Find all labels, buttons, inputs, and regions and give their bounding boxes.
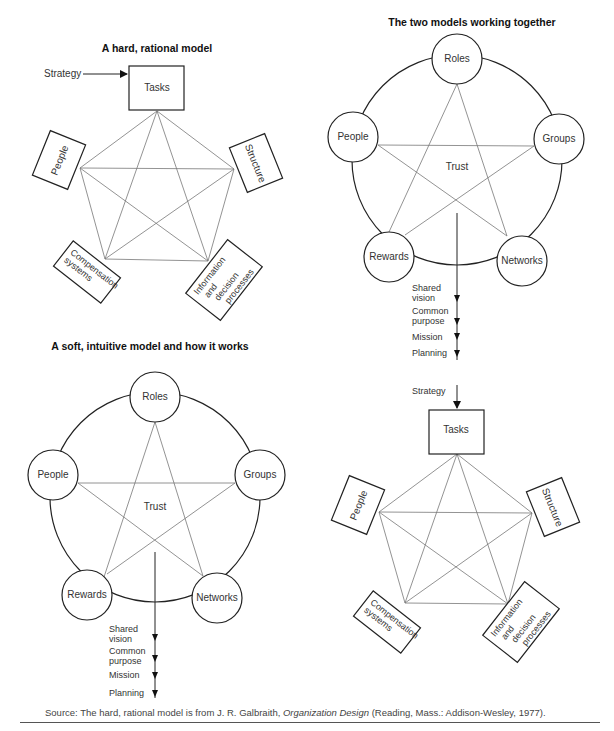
diagram-canvas: A hard, rational model Strategy Tasks Pe… xyxy=(0,0,614,731)
svg-text:Groups: Groups xyxy=(244,469,277,480)
node-structure: Structure xyxy=(229,134,282,193)
svg-text:Mission: Mission xyxy=(412,332,443,342)
svg-text:Groups: Groups xyxy=(543,133,576,144)
svg-text:Networks: Networks xyxy=(196,592,238,603)
svg-text:purpose: purpose xyxy=(412,316,445,326)
svg-text:purpose: purpose xyxy=(109,656,142,666)
node-tasks-2: Tasks xyxy=(429,410,484,454)
svg-text:People: People xyxy=(337,131,369,142)
svg-text:Shared: Shared xyxy=(412,283,441,293)
svg-text:People: People xyxy=(37,469,69,480)
node-people: People xyxy=(32,131,85,190)
combined-star xyxy=(378,84,534,236)
svg-text:Common: Common xyxy=(412,306,449,316)
svg-text:Planning: Planning xyxy=(109,688,144,698)
svg-text:Common: Common xyxy=(109,646,146,656)
node-people-3: People xyxy=(28,450,78,500)
node-roles-3: Roles xyxy=(130,372,180,422)
node-tasks: Tasks xyxy=(129,66,184,110)
svg-text:Rewards: Rewards xyxy=(67,589,106,600)
soft-model-title: A soft, intuitive model and how it works xyxy=(51,340,249,352)
svg-text:Tasks: Tasks xyxy=(144,82,170,93)
hard-model-links xyxy=(80,111,234,261)
svg-text:Rewards: Rewards xyxy=(369,251,408,262)
svg-text:Networks: Networks xyxy=(501,255,543,266)
node-compensation-systems: Compensation systems xyxy=(54,241,123,305)
svg-text:vision: vision xyxy=(412,293,435,303)
node-rewards-3: Rewards xyxy=(62,570,112,620)
node-groups-3: Groups xyxy=(235,450,285,500)
trust-label: Trust xyxy=(446,161,469,172)
soft-model-panel: A soft, intuitive model and how it works… xyxy=(28,340,285,698)
node-information-decision-processes: Information and decision processes xyxy=(186,240,263,321)
svg-text:Tasks: Tasks xyxy=(443,424,469,435)
bottom-rule xyxy=(20,722,600,723)
combined-hard-links xyxy=(379,454,532,604)
strategy-label-2: Strategy xyxy=(412,386,446,396)
hard-model-title: A hard, rational model xyxy=(102,42,213,54)
source-caption: Source: The hard, rational model is from… xyxy=(45,707,546,718)
node-networks-3: Networks xyxy=(192,573,242,623)
source-book-title: Organization Design xyxy=(283,707,369,718)
svg-text:Planning: Planning xyxy=(412,348,447,358)
hard-model-panel: A hard, rational model Strategy Tasks Pe… xyxy=(32,42,282,320)
soft-star xyxy=(78,422,235,577)
node-compensation-systems-2: Compensation systems xyxy=(354,591,423,655)
node-people-box-2: People xyxy=(331,476,384,535)
strategy-label: Strategy xyxy=(44,68,81,79)
combined-title: The two models working together xyxy=(388,16,555,28)
node-roles: Roles xyxy=(432,34,482,84)
svg-text:Roles: Roles xyxy=(142,391,168,402)
trust-label-2: Trust xyxy=(144,501,167,512)
svg-text:Mission: Mission xyxy=(109,670,140,680)
node-networks: Networks xyxy=(497,236,547,286)
svg-text:Roles: Roles xyxy=(444,53,470,64)
node-rewards: Rewards xyxy=(364,232,414,282)
node-structure-2: Structure xyxy=(526,478,579,537)
node-people-circle: People xyxy=(328,112,378,162)
svg-text:Shared: Shared xyxy=(109,624,138,634)
node-groups: Groups xyxy=(534,114,584,164)
combined-panel: The two models working together Roles Pe… xyxy=(328,16,584,662)
svg-text:vision: vision xyxy=(109,634,132,644)
